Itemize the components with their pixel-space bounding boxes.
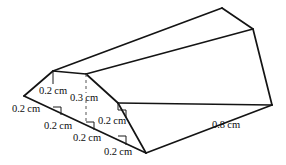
label-height: 0.3 cm	[70, 93, 98, 104]
label-mid-right-slant: 0.2 cm	[98, 116, 126, 127]
label-base-right: 0.2 cm	[104, 147, 132, 158]
figure-root: 0.2 cm 0.3 cm 0.2 cm 0.2 cm 0.2 cm 0.2 c…	[0, 0, 286, 165]
label-upper-slant: 0.2 cm	[39, 86, 67, 97]
label-base-left: 0.2 cm	[44, 121, 72, 132]
label-base-middle: 0.2 cm	[73, 133, 101, 144]
label-left-edge: 0.2 cm	[12, 104, 40, 115]
prism-diagram-svg	[0, 0, 286, 165]
label-length: 0.8 cm	[212, 120, 240, 131]
